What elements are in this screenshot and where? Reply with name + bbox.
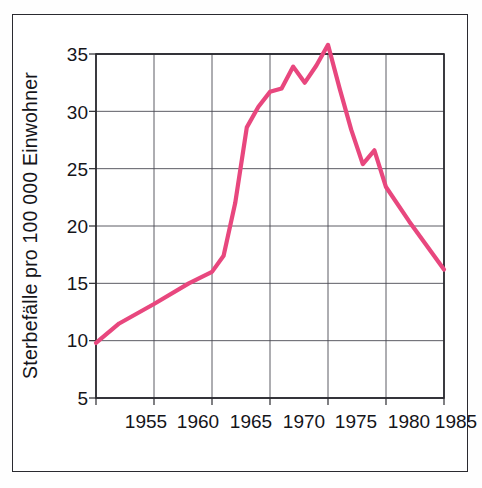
axis-tick-marks xyxy=(89,54,444,405)
figure-container: Sterbefälle pro 100 000 Einwohner 35 30 … xyxy=(0,0,482,488)
grid-lines xyxy=(96,54,444,398)
line-chart-plot xyxy=(0,0,482,488)
